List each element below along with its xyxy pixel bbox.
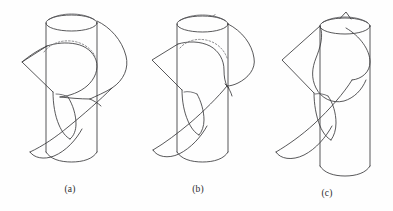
figure-panel-c: (c) xyxy=(258,0,393,211)
cylinder-bottom-rim-c xyxy=(320,166,370,176)
ribbon-fold-notch-b xyxy=(184,92,197,94)
cylinder-top-rim-c xyxy=(320,18,370,34)
panel-c-drawing xyxy=(258,0,393,190)
ribbon-lower-sweep-c xyxy=(276,80,352,152)
ribbon-lower-sweep-b xyxy=(153,86,227,150)
panel-c-caption: (c) xyxy=(258,188,393,198)
ribbon-front-upper-right-a xyxy=(60,97,90,99)
ribbon-lower-tail-c xyxy=(276,126,332,159)
ribbon-outer-edge-a xyxy=(90,21,127,99)
figure-panel-a: (a) xyxy=(0,0,140,211)
panel-a-drawing xyxy=(0,0,140,185)
ribbon-left-corner-b xyxy=(152,44,182,90)
ribbon-left-corner-a xyxy=(22,46,53,92)
figure-root: (a) xyxy=(0,0,393,211)
ribbon-outer-edge-b xyxy=(227,24,254,86)
ribbon-right-loop-c xyxy=(346,28,370,80)
ribbon-inner-fold-return-a xyxy=(68,97,76,139)
panel-a-caption: (a) xyxy=(0,184,140,194)
panel-b-drawing xyxy=(128,0,268,185)
cylinder-bottom-rim-b xyxy=(177,152,228,162)
ribbon-front-upper-b xyxy=(178,42,227,86)
ribbon-front-upper-a xyxy=(47,43,97,97)
cylinder-bottom-rim-a xyxy=(46,152,97,162)
panel-b-caption: (b) xyxy=(128,184,268,194)
figure-panel-b: (b) xyxy=(128,0,268,211)
ribbon-inner-fold-b xyxy=(182,90,199,135)
ribbon-inner-fold-return-b xyxy=(197,94,204,135)
